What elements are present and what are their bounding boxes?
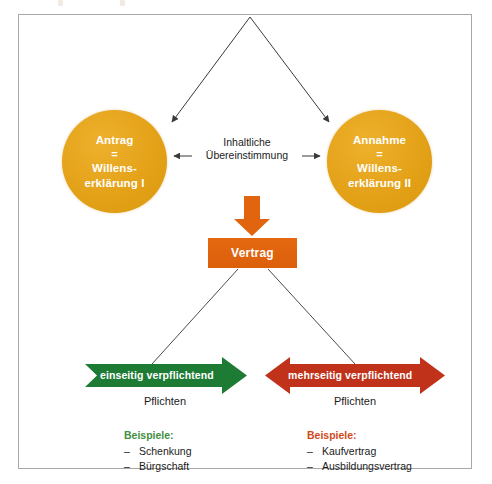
mehrseitig-examples: Beispiele: – Kaufvertrag – Ausbildungsve… — [307, 428, 412, 474]
match-label-line2: Übereinstimmung — [196, 149, 298, 162]
node-annahme-equals: = — [376, 148, 383, 161]
node-annahme-line1: Annahme — [353, 133, 406, 148]
dash-bullet: – — [124, 459, 132, 474]
einseitig-examples: Beispiele: – Schenkung – Bürgschaft — [124, 428, 192, 474]
list-item-label: Schenkung — [139, 444, 192, 459]
node-annahme-line3: Willens- — [357, 161, 402, 176]
branch-line-left — [152, 269, 238, 364]
list-item: – Ausbildungsvertrag — [307, 459, 412, 474]
dash-bullet: – — [307, 444, 315, 459]
node-annahme[interactable]: Annahme = Willens- erklärung II — [327, 110, 432, 213]
list-item: – Bürgschaft — [124, 459, 192, 474]
list-item-label: Bürgschaft — [139, 459, 189, 474]
einseitig-examples-list: – Schenkung – Bürgschaft — [124, 444, 192, 474]
node-antrag-line1: Antrag — [96, 133, 134, 148]
einseitig-caption: Pflichten — [115, 395, 215, 407]
list-item: – Schenkung — [124, 444, 192, 459]
dash-bullet: – — [307, 459, 315, 474]
node-antrag[interactable]: Antrag = Willens- erklärung I — [62, 110, 167, 213]
fork-arrow-to-antrag — [172, 17, 250, 122]
match-label: Inhaltliche Übereinstimmung — [196, 136, 298, 162]
mehrseitig-examples-list: – Kaufvertrag – Ausbildungsvertrag — [307, 444, 412, 474]
node-antrag-line3: Willens- — [92, 161, 137, 176]
list-item-label: Ausbildungsvertrag — [322, 459, 412, 474]
dash-bullet: – — [124, 444, 132, 459]
node-vertrag-label: Vertrag — [231, 246, 274, 260]
einseitig-arrow-label: einseitig verpflichtend — [100, 369, 214, 381]
mehrseitig-examples-heading: Beispiele: — [307, 428, 412, 443]
node-vertrag[interactable]: Vertrag — [208, 238, 297, 268]
mehrseitig-caption: Pflichten — [305, 395, 405, 407]
contract-down-arrow — [234, 196, 270, 236]
branch-line-right — [268, 269, 355, 364]
einseitig-examples-heading: Beispiele: — [124, 428, 192, 443]
fork-arrow-to-annahme — [250, 17, 329, 122]
list-item: – Kaufvertrag — [307, 444, 412, 459]
diagram-root: Antrag = Willens- erklärung I Annahme = … — [0, 0, 492, 484]
node-antrag-line4: erklärung I — [85, 176, 145, 191]
list-item-label: Kaufvertrag — [322, 444, 376, 459]
node-antrag-equals: = — [111, 148, 118, 161]
match-label-line1: Inhaltliche — [196, 136, 298, 149]
node-annahme-line4: erklärung II — [348, 176, 411, 191]
mehrseitig-arrow-label: mehrseitig verpflichtend — [288, 369, 412, 381]
